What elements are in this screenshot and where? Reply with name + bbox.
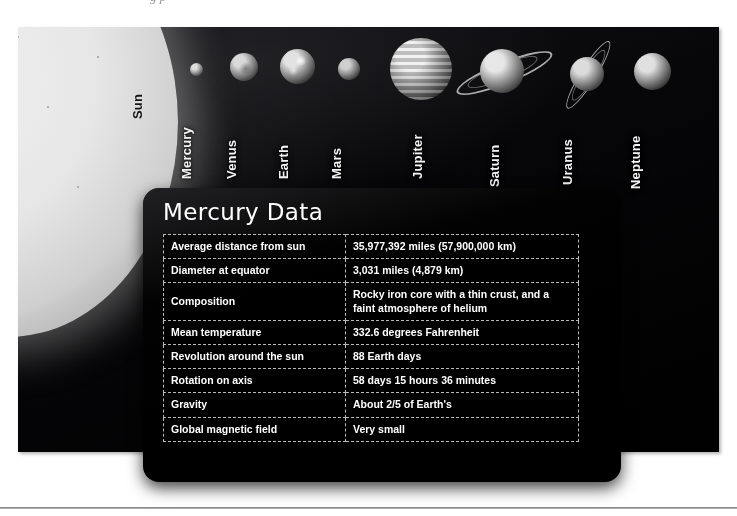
clipped-caption-artifact: g p <box>0 0 737 9</box>
table-cell-label: Rotation on axis <box>164 369 346 393</box>
planet-jupiter <box>390 38 452 100</box>
table-row: Revolution around the sun88 Earth days <box>164 345 579 369</box>
table-cell-label: Global magnetic field <box>164 417 346 441</box>
planet-label-earth: Earth <box>276 145 291 179</box>
planet-venus <box>230 53 258 81</box>
table-cell-value: About 2/5 of Earth's <box>346 393 579 417</box>
table-row: GravityAbout 2/5 of Earth's <box>164 393 579 417</box>
table-cell-label: Diameter at equator <box>164 259 346 283</box>
table-cell-label: Gravity <box>164 393 346 417</box>
table-cell-label: Average distance from sun <box>164 235 346 259</box>
table-cell-value: Rocky iron core with a thin crust, and a… <box>346 283 579 321</box>
planet-label-uranus: Uranus <box>560 139 575 185</box>
table-cell-value: 35,977,392 miles (57,900,000 km) <box>346 235 579 259</box>
planet-label-neptune: Neptune <box>628 136 643 189</box>
table-row: Global magnetic fieldVery small <box>164 417 579 441</box>
panel-title: Mercury Data <box>163 199 323 225</box>
planet-label-jupiter: Jupiter <box>410 134 425 179</box>
table-row: Mean temperature332.6 degrees Fahrenheit <box>164 321 579 345</box>
planet-earth <box>280 49 315 84</box>
planet-mars <box>338 58 360 80</box>
table-cell-value: Very small <box>346 417 579 441</box>
planet-label-venus: Venus <box>224 140 239 179</box>
table-cell-label: Revolution around the sun <box>164 345 346 369</box>
table-cell-value: 3,031 miles (4,879 km) <box>346 259 579 283</box>
table-cell-label: Composition <box>164 283 346 321</box>
planet-mercury <box>190 63 203 76</box>
table-cell-value: 58 days 15 hours 36 minutes <box>346 369 579 393</box>
table-cell-label: Mean temperature <box>164 321 346 345</box>
planet-label-sun: Sun <box>130 94 145 119</box>
table-row: Diameter at equator3,031 miles (4,879 km… <box>164 259 579 283</box>
planet-label-saturn: Saturn <box>487 145 502 187</box>
planet-neptune <box>634 53 671 90</box>
planet-label-mercury: Mercury <box>179 127 194 179</box>
mercury-data-table: Average distance from sun35,977,392 mile… <box>163 234 579 442</box>
table-cell-value: 332.6 degrees Fahrenheit <box>346 321 579 345</box>
planet-saturn <box>480 49 524 93</box>
table-row: CompositionRocky iron core with a thin c… <box>164 283 579 321</box>
bottom-divider-rule <box>0 507 737 509</box>
mercury-data-panel: Mercury Data Average distance from sun35… <box>143 188 621 482</box>
table-row: Average distance from sun35,977,392 mile… <box>164 235 579 259</box>
planet-uranus <box>570 57 604 91</box>
table-cell-value: 88 Earth days <box>346 345 579 369</box>
table-row: Rotation on axis58 days 15 hours 36 minu… <box>164 369 579 393</box>
planet-label-mars: Mars <box>329 148 344 179</box>
